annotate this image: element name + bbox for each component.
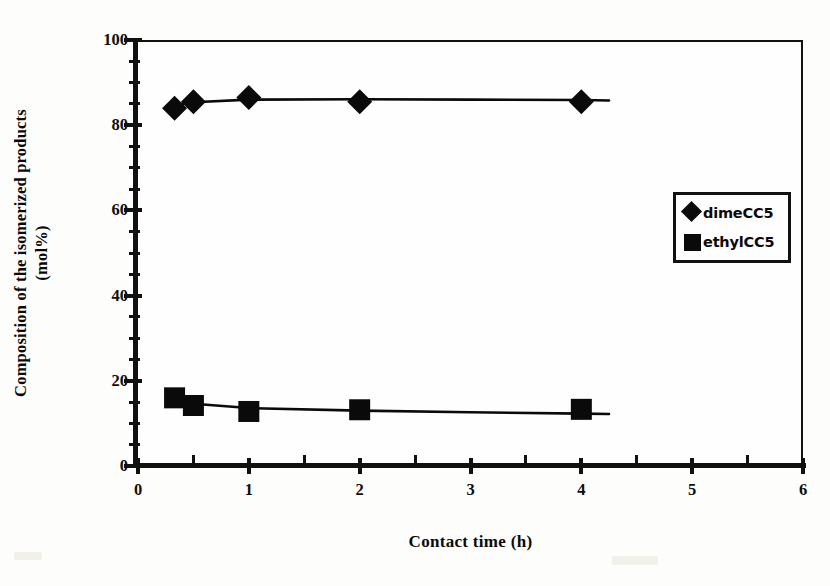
data-marker-diamond	[569, 89, 594, 114]
legend-label-ethylcc5: ethylCC5	[703, 234, 774, 250]
series-dimecc5	[162, 85, 609, 121]
data-marker-diamond	[347, 89, 372, 114]
square-icon	[682, 231, 704, 253]
data-marker-square	[238, 401, 259, 422]
data-marker-square	[183, 395, 204, 416]
legend-item-dimecc5: dimeCC5	[682, 200, 773, 226]
trend-line-ethylcc5	[171, 400, 609, 414]
trend-line-dimecc5	[171, 99, 609, 105]
data-marker-square	[571, 399, 592, 420]
legend-label-dimecc5: dimeCC5	[703, 205, 773, 221]
data-layer	[0, 0, 830, 586]
x-axis-title: Contact time (h)	[138, 532, 803, 552]
data-marker-diamond	[236, 85, 261, 110]
legend: dimeCC5 ethylCC5	[673, 192, 791, 263]
data-marker-square	[349, 399, 370, 420]
chart-figure: Composition of the isomerized products (…	[0, 0, 830, 586]
data-marker-square	[164, 387, 185, 408]
legend-item-ethylcc5: ethylCC5	[682, 229, 774, 255]
diamond-icon	[682, 202, 704, 224]
series-ethylcc5	[164, 387, 609, 422]
